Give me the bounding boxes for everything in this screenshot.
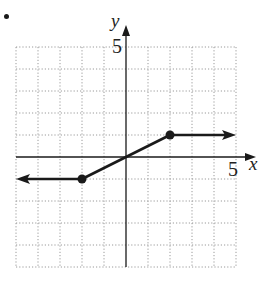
closed-point <box>78 175 87 184</box>
closed-point <box>166 131 175 140</box>
y-axis-label: y <box>111 10 119 32</box>
y-tick-label: 5 <box>112 35 122 58</box>
y-axis-arrow-icon <box>122 25 130 36</box>
x-tick-label: 5 <box>228 158 238 181</box>
piecewise-graph <box>0 0 267 281</box>
x-axis-label: x <box>249 153 257 175</box>
